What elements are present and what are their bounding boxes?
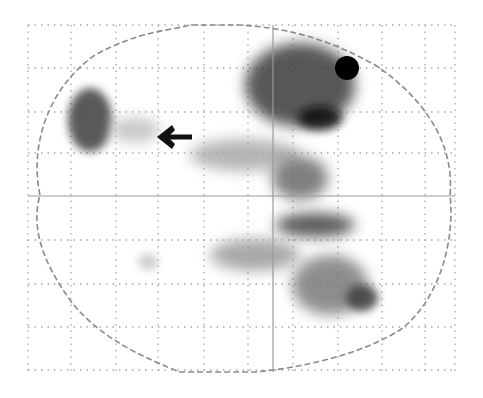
right-frontal-core <box>298 106 342 130</box>
brain-outline <box>37 25 451 372</box>
small-left-spot <box>138 254 158 270</box>
left-frontal-cluster <box>68 88 112 152</box>
posterior-band <box>275 213 355 237</box>
central-cluster <box>272 156 328 200</box>
activation-clusters <box>68 43 378 315</box>
marker-dot <box>335 56 359 80</box>
posterior-core <box>346 285 378 311</box>
brain-activation-map <box>0 0 483 398</box>
arrow-left-icon <box>157 125 192 149</box>
posterior-left-band <box>210 239 300 271</box>
left-frontal-faint <box>110 118 160 142</box>
